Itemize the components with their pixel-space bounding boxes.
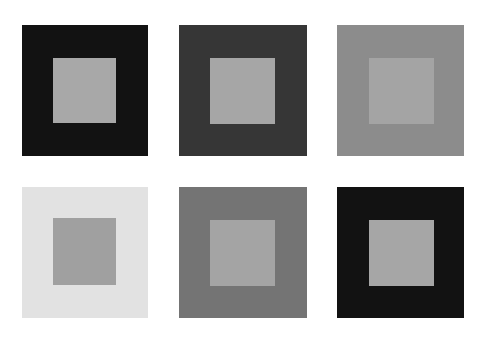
surround-square-1 [22,25,148,156]
center-square-4 [53,218,116,285]
surround-square-4 [22,187,148,318]
surround-square-2 [179,25,307,156]
center-square-3 [369,58,434,124]
surround-square-3 [337,25,464,156]
surround-square-6 [337,187,464,318]
center-square-2 [210,58,275,124]
center-square-5 [210,220,275,286]
center-square-1 [53,58,116,123]
center-square-6 [369,220,434,286]
surround-square-5 [179,187,307,318]
